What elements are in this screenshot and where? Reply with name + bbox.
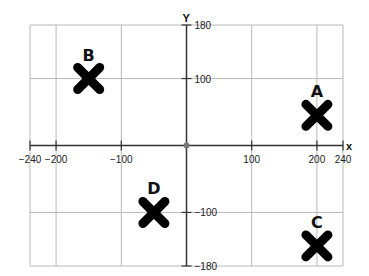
x-tick-label: 240 [335,154,352,165]
point-label: A [311,82,324,101]
y-tick-label: −180 [195,261,218,272]
x-tick-label: 200 [309,154,326,165]
y-tick-label: 100 [195,74,212,85]
point-b: B [78,46,100,90]
x-tick-label: −200 [45,154,68,165]
y-tick-label: −100 [195,207,218,218]
x-axis-label: x [346,140,353,152]
y-tick-label: 180 [195,20,212,31]
point-d: D [143,179,165,223]
axes [30,25,343,266]
point-label: B [83,46,95,65]
x-tick-label: −240 [19,154,42,165]
x-tick-label: −100 [110,154,133,165]
point-label: D [147,179,160,198]
coordinate-plane: −240−200−100100200240180100−100−180xY AB… [0,0,369,276]
x-tick-label: 100 [243,154,260,165]
point-label: C [311,213,323,232]
origin-dot [184,143,190,149]
y-axis-label: Y [183,12,191,24]
